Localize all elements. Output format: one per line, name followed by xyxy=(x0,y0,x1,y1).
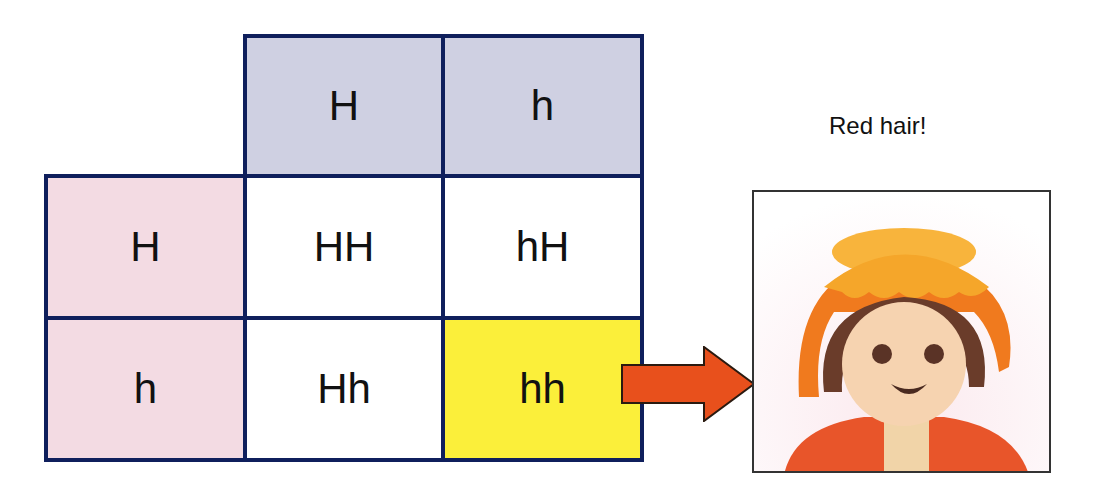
cell-hh-highlighted: hh xyxy=(441,316,644,462)
allele-label: h xyxy=(531,82,554,130)
arrow-right-icon xyxy=(621,346,757,422)
toy-figure-illustration xyxy=(754,192,1051,473)
genotype-label: Hh xyxy=(317,365,371,413)
row-header-2: h xyxy=(44,316,247,462)
allele-label: H xyxy=(329,82,359,130)
result-image xyxy=(752,190,1051,473)
cell-Hh: Hh xyxy=(243,316,445,462)
allele-label: h xyxy=(134,365,157,413)
cell-hH: hH xyxy=(441,174,644,320)
column-header-2: h xyxy=(441,34,644,178)
allele-label: H xyxy=(130,223,160,271)
genotype-label: HH xyxy=(314,223,375,271)
cell-HH: HH xyxy=(243,174,445,320)
row-header-1: H xyxy=(44,174,247,320)
genotype-label: hH xyxy=(516,223,570,271)
genotype-label: hh xyxy=(519,365,566,413)
column-header-1: H xyxy=(243,34,445,178)
result-caption: Red hair! xyxy=(829,112,926,140)
